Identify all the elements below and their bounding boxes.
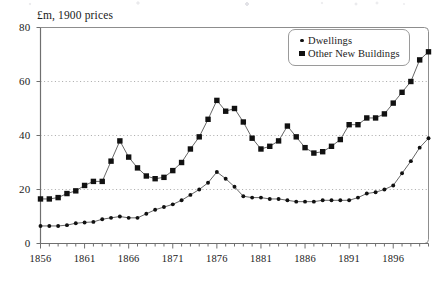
x-tick-label: 1866 [118, 253, 140, 264]
y-tick-label: 40 [5, 129, 31, 141]
y-tick-label: 80 [5, 21, 31, 33]
x-tick-label: 1891 [338, 253, 360, 264]
x-tick-label: 1881 [250, 253, 272, 264]
legend-item-label: Other New Buildings [308, 48, 400, 59]
y-tick-label: 20 [5, 183, 31, 195]
legend-item: Dwellings [296, 34, 400, 47]
x-tick-label: 1896 [382, 253, 404, 264]
y-tick-label: 0 [5, 237, 31, 249]
x-tick-label: 1876 [206, 253, 228, 264]
y-tick-label: 60 [5, 75, 31, 87]
marker-glyph [299, 51, 304, 56]
x-tick-label: 1861 [74, 253, 96, 264]
chart-figure: £m, 1900 prices 020406080 18561861186618… [0, 0, 440, 284]
square-marker-icon [296, 51, 308, 56]
legend-item-label: Dwellings [308, 35, 352, 46]
dot-marker-icon [296, 39, 308, 43]
marker-glyph [300, 39, 304, 43]
legend-item: Other New Buildings [296, 47, 400, 60]
x-tick-label: 1871 [162, 253, 184, 264]
chart-legend: DwellingsOther New Buildings [288, 29, 410, 66]
x-tick-label: 1886 [294, 253, 316, 264]
x-tick-label: 1856 [30, 253, 52, 264]
